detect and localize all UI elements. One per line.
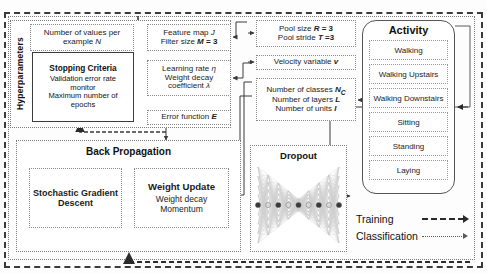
feature-map-box: Feature map J Filter size M = 3	[147, 24, 231, 51]
legend-training-arrow-icon	[422, 214, 472, 224]
activity-item-sitting[interactable]: Sitting	[369, 112, 448, 132]
sgd-line-2: Descent	[58, 198, 93, 208]
sgd-line-1: Stochastic Gradient	[33, 188, 118, 198]
weight-update-box: Weight Update Weight decay Momentum	[134, 168, 229, 228]
error-function-box: Error function E	[147, 110, 231, 125]
activity-item-walking[interactable]: Walking	[369, 40, 448, 60]
activity-item-walking-downstairs[interactable]: Walking Downstairs	[369, 88, 448, 108]
learning-rate-box: Learning rate η Weight decay coefficient…	[147, 60, 231, 96]
stopping-criteria-box: Stopping Criteria Validation error rate …	[32, 52, 134, 122]
number-of-values-line-2: example N	[63, 38, 101, 47]
feature-map-line-2: Filter size M = 3	[161, 38, 218, 47]
pool-size-box: Pool size R = 3 Pool stride T =3	[256, 20, 356, 47]
pool-size-line-2: Pool stride T =3	[278, 34, 334, 43]
back-propagation-title: Back Propagation	[16, 146, 241, 157]
activity-title: Activity	[362, 24, 455, 36]
legend-classification-arrow-icon	[422, 231, 472, 241]
learning-rate-line-3: coefficient λ	[168, 82, 210, 91]
dropout-title: Dropout	[250, 150, 347, 161]
number-of-values-box: Number of values per example N	[30, 24, 134, 51]
weight-update-line-2: Momentum	[160, 205, 203, 215]
legend-row-classification: Classification	[356, 227, 481, 244]
error-function-line-1: Error function E	[161, 113, 217, 122]
activity-item-laying[interactable]: Laying	[369, 160, 448, 180]
hyperparameters-label: Hyperparameters	[12, 22, 28, 126]
stopping-criteria-title: Stopping Criteria	[49, 64, 116, 74]
layer-counts-line-3: Number of units I	[276, 105, 337, 114]
stopping-criteria-line-4: epochs	[71, 101, 96, 110]
activity-item-standing[interactable]: Standing	[369, 136, 448, 156]
legend-label-classification: Classification	[356, 230, 422, 242]
legend-row-training: Training	[356, 210, 481, 227]
layer-counts-box: Number of classes NC Number of layers L …	[256, 78, 356, 121]
stochastic-gradient-descent-box: Stochastic Gradient Descent	[29, 168, 122, 228]
dropout-network-icon	[252, 162, 345, 248]
legend-label-training: Training	[356, 213, 422, 225]
activity-item-walking-upstairs[interactable]: Walking Upstairs	[369, 64, 448, 84]
weight-update-title: Weight Update	[148, 182, 215, 193]
legend: Training Classification	[356, 210, 481, 244]
velocity-variable-box: Velocity variable v	[256, 55, 356, 70]
velocity-variable-line-1: Velocity variable v	[274, 58, 338, 67]
diagram-canvas: Hyperparameters Number of values per exa…	[0, 0, 487, 274]
